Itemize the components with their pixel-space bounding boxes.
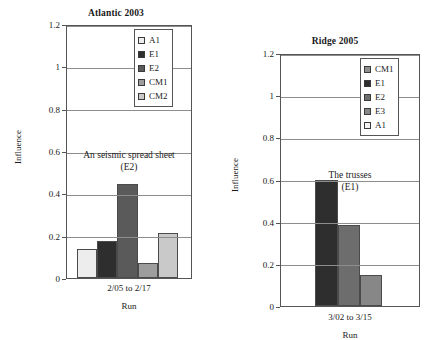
annotation-left-line1: An seismic spread sheet xyxy=(66,149,192,161)
legend-item-label: E2 xyxy=(375,92,385,102)
y-tick-label: 1 xyxy=(246,91,274,101)
y-tick-mark xyxy=(276,54,280,55)
y-tick-label: 1 xyxy=(32,62,60,72)
legend-item-e2: E2 xyxy=(138,61,168,75)
annotation-right-line1: The trusses xyxy=(290,169,410,181)
y-tick-mark xyxy=(62,237,66,238)
gridline xyxy=(281,265,419,266)
y-tick-label: 0.6 xyxy=(32,147,60,157)
x-tick-label-left: 2/05 to 2/17 xyxy=(66,283,192,293)
y-tick-label: 0.4 xyxy=(246,218,274,228)
legend-swatch-icon xyxy=(138,65,145,72)
y-tick-mark xyxy=(276,181,280,182)
y-tick-label: 0.4 xyxy=(32,189,60,199)
y-tick-label: 0.8 xyxy=(246,133,274,143)
legend-swatch-icon xyxy=(138,93,145,100)
legend-item-label: A1 xyxy=(375,120,386,130)
chart-title-right: Ridge 2005 xyxy=(242,36,428,46)
legend-item-cm2: CM2 xyxy=(138,89,168,103)
y-axis-label-left: Influence xyxy=(13,117,23,177)
y-tick-label: 0.2 xyxy=(246,260,274,270)
legend-item-cm1: CM1 xyxy=(138,75,168,89)
legend-item-e2: E2 xyxy=(364,90,394,104)
y-tick-mark xyxy=(276,223,280,224)
legend-item-e3: E3 xyxy=(364,104,394,118)
y-tick-mark xyxy=(62,279,66,280)
y-tick-label: 0 xyxy=(32,274,60,284)
y-tick-mark xyxy=(276,265,280,266)
gridline xyxy=(281,139,419,140)
y-tick-mark xyxy=(62,194,66,195)
legend-item-a1: A1 xyxy=(364,118,394,132)
gridline xyxy=(67,110,191,111)
legend-swatch-icon xyxy=(138,79,145,86)
bar-a1 xyxy=(77,249,97,278)
annotation-right-line2: (E1) xyxy=(290,181,410,193)
chart-panel-atlantic-2003: Atlantic 2003 Influence An seismic sprea… xyxy=(4,2,208,332)
legend-item-label: CM2 xyxy=(149,91,168,101)
legend-swatch-icon xyxy=(364,66,371,73)
y-tick-label: 0.2 xyxy=(32,232,60,242)
chart-title-left: Atlantic 2003 xyxy=(28,8,204,18)
gridline xyxy=(281,55,419,56)
legend-right: CM1E1E2E3A1 xyxy=(360,58,399,136)
legend-item-e1: E1 xyxy=(138,47,168,61)
y-tick-mark xyxy=(62,25,66,26)
legend-item-label: E2 xyxy=(149,63,159,73)
gridline xyxy=(67,26,191,27)
legend-item-e1: E1 xyxy=(364,76,394,90)
bar-cm2 xyxy=(158,233,178,279)
figure-two-bar-charts: Atlantic 2003 Influence An seismic sprea… xyxy=(0,0,436,340)
y-tick-mark xyxy=(62,152,66,153)
legend-item-label: E1 xyxy=(375,78,385,88)
bar-e2 xyxy=(117,184,137,278)
bar-e1 xyxy=(97,241,117,278)
legend-swatch-icon xyxy=(364,94,371,101)
gridline xyxy=(281,223,419,224)
legend-item-label: A1 xyxy=(149,35,160,45)
bar-cm1 xyxy=(138,263,158,278)
bar-e1 xyxy=(315,180,337,307)
legend-swatch-icon xyxy=(138,37,145,44)
legend-item-label: E1 xyxy=(149,49,159,59)
y-tick-mark xyxy=(276,307,280,308)
gridline xyxy=(67,195,191,196)
legend-swatch-icon xyxy=(364,80,371,87)
y-tick-label: 1.2 xyxy=(246,49,274,59)
y-tick-mark xyxy=(276,96,280,97)
legend-swatch-icon xyxy=(364,108,371,115)
y-tick-mark xyxy=(276,138,280,139)
chart-panel-ridge-2005: Ridge 2005 Influence The trusses (E1) CM… xyxy=(218,32,432,338)
legend-left: A1E1E2CM1CM2 xyxy=(134,29,173,107)
y-tick-label: 0.8 xyxy=(32,105,60,115)
legend-item-a1: A1 xyxy=(138,33,168,47)
y-tick-label: 0 xyxy=(246,302,274,312)
x-axis-label-left: Run xyxy=(66,301,192,311)
gridline xyxy=(67,237,191,238)
legend-item-label: CM1 xyxy=(375,64,394,74)
legend-item-label: CM1 xyxy=(149,77,168,87)
annotation-left: An seismic spread sheet (E2) xyxy=(66,149,192,173)
x-axis-label-right: Run xyxy=(280,330,420,340)
y-tick-mark xyxy=(62,110,66,111)
y-tick-label: 0.6 xyxy=(246,176,274,186)
y-axis-label-right: Influence xyxy=(230,145,240,205)
legend-item-label: E3 xyxy=(375,106,385,116)
x-tick-label-right: 3/02 to 3/15 xyxy=(280,312,420,322)
y-tick-label: 1.2 xyxy=(32,20,60,30)
y-tick-mark xyxy=(62,67,66,68)
bar-e3 xyxy=(360,275,382,306)
legend-item-cm1: CM1 xyxy=(364,62,394,76)
legend-swatch-icon xyxy=(138,51,145,58)
annotation-right: The trusses (E1) xyxy=(290,169,410,193)
annotation-left-line2: (E2) xyxy=(66,161,192,173)
legend-swatch-icon xyxy=(364,122,371,129)
